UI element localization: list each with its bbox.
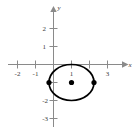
- x-axis-label: x: [127, 61, 132, 69]
- y-tick-label-neg2: -2: [42, 97, 48, 105]
- x-tick-label-1: 1: [70, 70, 74, 78]
- y-axis-label: y: [56, 4, 61, 12]
- y-tick-label-neg3: -3: [42, 115, 48, 123]
- x-tick-label-3: 3: [106, 70, 110, 78]
- coordinate-plane: -2 -1 1 3 2 1 -2 -3 x y: [0, 0, 137, 135]
- y-tick-label-2: 2: [43, 25, 47, 33]
- y-axis-arrow-icon: [50, 6, 56, 12]
- x-tick-label-neg2: -2: [15, 70, 21, 78]
- y-tick-label-1: 1: [43, 43, 47, 51]
- x-tick-label-neg1: -1: [33, 70, 39, 78]
- center-point: [69, 80, 74, 85]
- graph-figure: -2 -1 1 3 2 1 -2 -3 x y: [0, 0, 137, 135]
- focus-point-left: [46, 80, 51, 85]
- focus-point-right: [91, 80, 96, 85]
